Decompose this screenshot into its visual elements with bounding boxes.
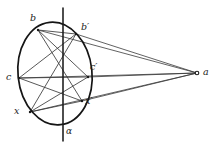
point-x-prime-dot — [81, 100, 83, 102]
point-b-dot — [37, 29, 39, 31]
point-x-dot — [29, 111, 31, 113]
chord-c-x-prime — [19, 78, 82, 101]
label-alpha: α — [66, 127, 72, 136]
label-a: a — [203, 67, 209, 77]
ray-a-to-b — [38, 30, 197, 73]
label-x: x — [14, 106, 19, 116]
point-a-apex — [195, 71, 199, 75]
chord-c-b-prime — [19, 34, 76, 78]
label-b-prime: b′ — [81, 22, 89, 32]
label-b: b — [30, 13, 36, 23]
chord-x-c-prime — [30, 77, 88, 112]
label-x-prime: x′ — [85, 96, 93, 106]
label-c: c — [6, 72, 11, 82]
label-c-prime: c′ — [90, 62, 97, 72]
point-c-prime-dot — [87, 76, 89, 78]
chord-b-b-prime — [38, 30, 76, 34]
point-c-dot — [18, 77, 20, 79]
chord-c-c-prime — [19, 77, 88, 78]
geometry-figure: b b′ c c′ x x′ a α — [0, 0, 212, 150]
chord-x-x-prime — [30, 101, 82, 112]
ray-a-to-c-prime — [88, 73, 197, 77]
chord-x-b-prime — [30, 34, 76, 112]
point-b-prime-dot — [75, 33, 77, 35]
inscribed-chords — [19, 30, 88, 112]
ray-a-to-x-prime — [82, 73, 197, 101]
